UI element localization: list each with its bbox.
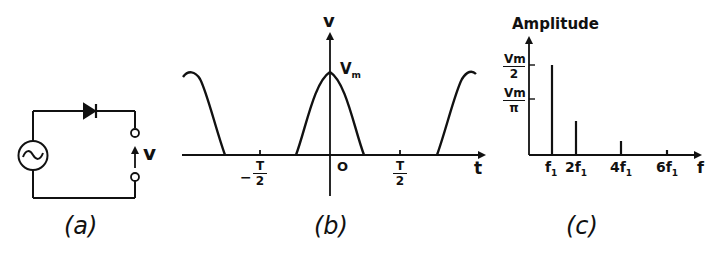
caption-c: (c) xyxy=(566,214,598,238)
v-axis-label: v xyxy=(323,12,335,30)
harmonic-label-6f1: 6f1 xyxy=(656,160,678,178)
tick-neg-half-label: T 2 xyxy=(253,160,267,187)
harmonic-coef: 4 xyxy=(610,159,620,175)
harmonic-sub: 1 xyxy=(672,168,678,178)
harmonic-sub: 1 xyxy=(581,168,587,178)
tick-pos-num: T xyxy=(393,160,407,174)
amplitude-axis-label: Amplitude xyxy=(512,17,599,32)
circuit-diagram xyxy=(19,104,140,198)
caption-a: (a) xyxy=(64,214,97,238)
peak-label: Vm xyxy=(340,62,361,80)
harmonic-label-4f1: 4f1 xyxy=(610,160,632,178)
peak-label-sub: m xyxy=(352,70,361,80)
tick-neg-num: T xyxy=(253,160,267,174)
tick-vm-2-label: Vm 2 xyxy=(503,53,525,80)
tick-vm-2-den: 2 xyxy=(503,67,525,80)
harmonic-label-f1: f1 xyxy=(545,160,557,178)
waveform-graph xyxy=(182,34,484,196)
output-voltage-label: v xyxy=(143,143,156,163)
diode-icon xyxy=(84,104,95,118)
caption-b: (b) xyxy=(314,214,348,238)
terminal-bottom xyxy=(131,173,139,181)
sine-wave-icon xyxy=(23,151,43,159)
harmonic-label-2f1: 2f1 xyxy=(565,160,587,178)
harmonic-coef: 6 xyxy=(656,159,666,175)
tick-neg-sign: − xyxy=(240,170,252,184)
harmonic-sub: 1 xyxy=(626,168,632,178)
tick-pos-half-label: T 2 xyxy=(393,160,407,187)
wave-lobe-left xyxy=(183,72,225,155)
tick-vm-2-num: Vm xyxy=(503,53,525,67)
spectrum-graph xyxy=(529,38,700,155)
tick-vm-pi-den: π xyxy=(503,101,525,114)
harmonic-coef: 2 xyxy=(565,159,575,175)
f-axis-label: f xyxy=(697,160,704,176)
peak-label-main: V xyxy=(340,60,352,78)
tick-pos-den: 2 xyxy=(393,174,407,187)
tick-vm-pi-label: Vm π xyxy=(503,87,525,114)
tick-vm-pi-num: Vm xyxy=(503,87,525,101)
terminal-top xyxy=(131,129,139,137)
t-axis-label: t xyxy=(474,160,482,177)
wave-lobe-right xyxy=(437,72,476,155)
harmonic-sub: 1 xyxy=(551,168,557,178)
tick-neg-den: 2 xyxy=(253,174,267,187)
figure-canvas xyxy=(0,0,720,255)
origin-label: O xyxy=(337,160,348,173)
